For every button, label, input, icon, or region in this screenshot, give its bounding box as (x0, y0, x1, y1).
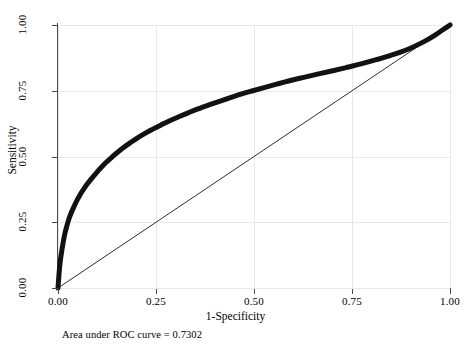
roc-curve-plot (58, 25, 450, 288)
x-axis-tick (352, 289, 353, 294)
x-axis-tick (156, 289, 157, 294)
y-axis-tick (52, 25, 58, 26)
auc-caption: Area under ROC curve = 0.7302 (62, 329, 202, 340)
plot-area (58, 25, 450, 288)
y-axis-tick-label: 0.75 (16, 64, 29, 116)
y-axis-tick-label: 0.50 (16, 130, 29, 182)
x-axis-tick-label: 0.75 (330, 295, 374, 308)
x-axis-tick-label: 0.50 (232, 295, 276, 308)
x-axis-tick (58, 289, 59, 294)
x-axis-tick-label: 0.00 (36, 295, 80, 308)
x-axis-tick-label: 0.25 (134, 295, 178, 308)
y-axis-tick-label: 0.00 (16, 262, 29, 314)
y-axis-tick-label: 0.25 (16, 196, 29, 248)
roc-curve-figure: 1-Specificity Sensitivity Area under ROC… (0, 0, 471, 353)
y-axis-tick-label: 1.00 (16, 0, 29, 51)
x-axis-tick (450, 289, 451, 294)
x-axis-label: 1-Specificity (0, 310, 471, 322)
reference-diagonal-line (58, 25, 450, 288)
y-axis-tick (52, 222, 58, 223)
y-axis-tick (52, 91, 58, 92)
x-axis-tick-label: 1.00 (428, 295, 471, 308)
x-axis-tick (254, 289, 255, 294)
y-axis-tick (52, 288, 58, 289)
y-axis-tick (52, 157, 58, 158)
gridline-vertical (450, 25, 451, 288)
